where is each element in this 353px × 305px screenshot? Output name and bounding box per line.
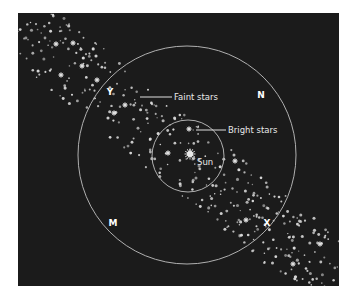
outer-circle [78, 46, 296, 264]
bright-stars-label: Bright stars [228, 125, 278, 135]
star-diagram: Sun Faint stars Bright stars Y N M X [18, 13, 339, 286]
region-label-y: Y [106, 87, 114, 97]
star-band [18, 13, 339, 286]
sun-label: Sun [197, 157, 213, 167]
star-diagram-panel: Sun Faint stars Bright stars Y N M X [18, 13, 339, 286]
region-label-n: N [257, 90, 265, 100]
region-label-x: X [264, 218, 271, 228]
region-label-m: M [109, 218, 118, 228]
faint-stars-label: Faint stars [174, 92, 219, 102]
